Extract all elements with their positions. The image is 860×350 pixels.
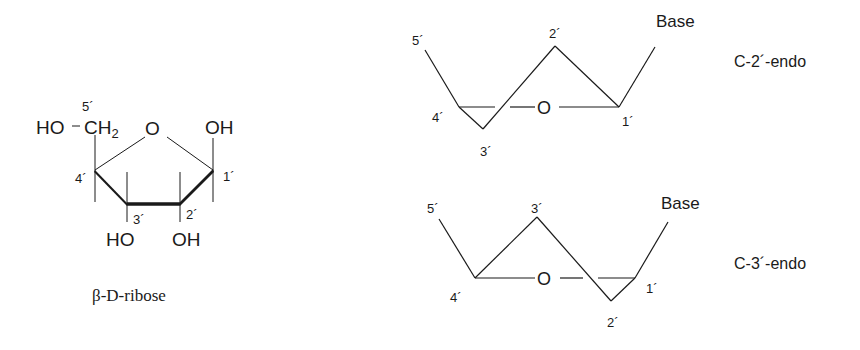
ribose-c3-number: 3´ bbox=[133, 212, 145, 227]
c3-endo-c5-number: 5´ bbox=[427, 201, 439, 216]
c3-endo-c4-number: 4´ bbox=[450, 290, 462, 305]
ribose-c2-number: 2´ bbox=[186, 207, 198, 222]
ribose-ch2-label: CH2 bbox=[84, 117, 119, 141]
c2-endo-ring-oxygen: O bbox=[537, 98, 551, 118]
c3-endo-title: C-3´-endo bbox=[734, 255, 806, 272]
c2-endo-title: C-2´-endo bbox=[734, 53, 806, 70]
c2-endo-base-label: Base bbox=[656, 12, 695, 31]
ribose-c1-hydroxyl-label: OH bbox=[205, 117, 234, 138]
c2-endo-c3-number: 3´ bbox=[480, 144, 492, 159]
ribose-c1-number: 1´ bbox=[223, 169, 235, 184]
ribose-c2-hydroxyl-label: OH bbox=[172, 229, 201, 250]
ribose-c3-hydroxyl-label: HO bbox=[106, 229, 135, 250]
c3-endo-base-label: Base bbox=[661, 194, 700, 213]
ribose-caption: β-D-ribose bbox=[92, 286, 166, 305]
c2-endo-c1-number: 1´ bbox=[622, 114, 634, 129]
sugar-pucker-diagram: HO CH2 5´ O OH 1´ 4´ 3´ 2´ HO OH β-D-rib… bbox=[0, 0, 860, 350]
c3-endo-structure bbox=[439, 217, 668, 301]
ribose-c5-hydroxyl-label: HO bbox=[36, 117, 65, 138]
c3-endo-c2-number: 2´ bbox=[607, 315, 619, 330]
c2-endo-c2-number: 2´ bbox=[549, 26, 561, 41]
ribose-c4-number: 4´ bbox=[75, 171, 87, 186]
c2-endo-c4-number: 4´ bbox=[432, 110, 444, 125]
c3-endo-c3-number: 3´ bbox=[531, 201, 543, 216]
ribose-ring-oxygen: O bbox=[145, 118, 160, 139]
c3-endo-c1-number: 1´ bbox=[646, 281, 658, 296]
c3-endo-ring-oxygen: O bbox=[537, 269, 551, 289]
ribose-c5-number: 5´ bbox=[82, 99, 94, 114]
c2-endo-c5-number: 5´ bbox=[412, 33, 424, 48]
